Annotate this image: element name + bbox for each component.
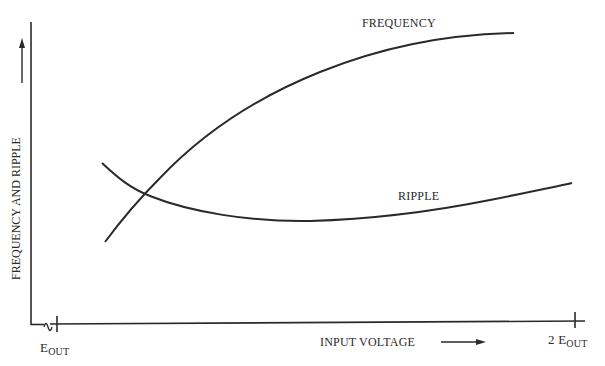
x-axis-label: INPUT VOLTAGE	[320, 335, 415, 350]
x-tick-label-2eout: 2 EOUT	[548, 332, 587, 348]
x-tick-label-eout-main: E	[40, 340, 48, 355]
arrow-up-icon	[19, 38, 25, 48]
x-tick-label-eout-sub: OUT	[48, 346, 69, 357]
frequency-series-label: FREQUENCY	[362, 16, 436, 31]
frequency-curve	[105, 33, 514, 242]
ripple-series-label: RIPPLE	[398, 189, 439, 204]
arrow-right-icon	[476, 339, 486, 345]
x-tick-label-eout: EOUT	[40, 340, 69, 356]
x-tick-label-2eout-sub: OUT	[566, 338, 587, 349]
y-axis-label: FREQUENCY AND RIPPLE	[9, 137, 24, 280]
chart-canvas	[0, 0, 605, 366]
ripple-curve	[102, 163, 572, 221]
x-tick-label-2eout-main: 2 E	[548, 332, 566, 347]
x-axis	[50, 321, 585, 324]
